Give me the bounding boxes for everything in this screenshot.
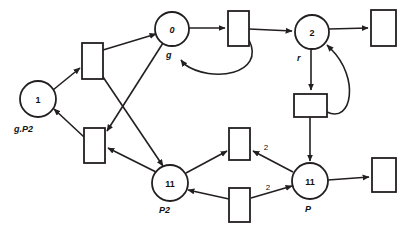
- place-label-p11b: P: [305, 204, 311, 214]
- arc-p0-t2: [107, 43, 163, 131]
- arc-p11a-t6: [186, 151, 227, 173]
- arc-p1-t1: [53, 68, 80, 90]
- diagram-canvas: 1021111 22: [0, 0, 414, 242]
- place-label-p11a: P2: [159, 205, 170, 215]
- place-label-p2: r: [297, 53, 301, 63]
- transition-t6[interactable]: [229, 128, 250, 160]
- transition-t4[interactable]: [371, 10, 396, 46]
- transition-t5[interactable]: [294, 94, 327, 117]
- arc-t3-p2: [249, 29, 292, 31]
- petri-net-diagram: 1021111 22 g.P2grP2P: [0, 0, 414, 242]
- place-token-count-p1: 1: [35, 95, 40, 105]
- weight-label-layer: 22: [264, 143, 271, 192]
- place-token-count-p0: 0: [169, 25, 174, 35]
- arc-t2-p1: [54, 109, 84, 137]
- arc-weight-label: 2: [264, 143, 269, 152]
- transition-t8[interactable]: [372, 158, 396, 192]
- place-token-count-p11b: 11: [305, 177, 315, 187]
- place-layer: 1021111: [20, 12, 329, 201]
- transition-t2[interactable]: [84, 128, 105, 163]
- arc-p2-t4: [329, 28, 368, 29]
- arc-t1-p0: [103, 34, 156, 50]
- transition-t7[interactable]: [229, 188, 250, 222]
- place-token-count-p2: 2: [309, 28, 314, 38]
- place-token-count-p11a: 11: [165, 179, 175, 189]
- arc-t5-p2-feedback: [327, 45, 349, 114]
- arc-t7-p11b: [251, 186, 292, 198]
- arc-t1-p11a: [101, 74, 163, 166]
- arc-p11b-t6: [253, 151, 293, 172]
- place-label-p0: g: [166, 50, 172, 60]
- arc-p11a-t2: [108, 148, 156, 172]
- arc-p11b-t8: [328, 177, 369, 180]
- transition-t1[interactable]: [82, 43, 103, 79]
- arc-t7-p11a: [188, 190, 229, 199]
- place-label-p1: g.P2: [14, 124, 33, 134]
- transition-t3[interactable]: [228, 11, 249, 46]
- arc-weight-label: 2: [266, 183, 271, 192]
